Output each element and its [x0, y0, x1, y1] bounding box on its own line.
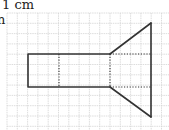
net-diagram: [0, 0, 169, 130]
